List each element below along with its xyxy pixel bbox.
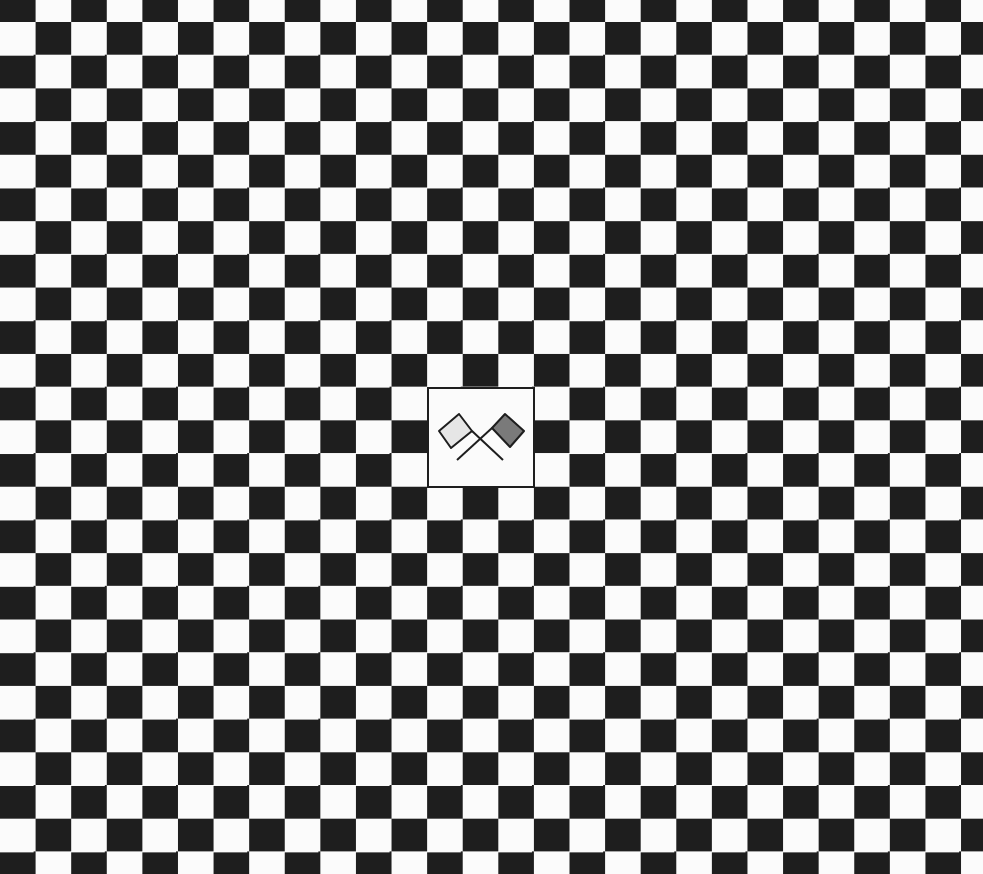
center-emblem-tile: [427, 387, 535, 488]
right-flag-icon: [492, 414, 524, 447]
left-flag-icon: [439, 414, 472, 448]
crossed-racing-flags-icon: [429, 389, 533, 486]
